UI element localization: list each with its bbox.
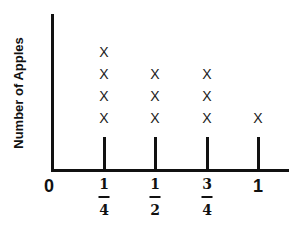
tick-one-quarter — [103, 137, 106, 171]
data-mark: X — [99, 111, 108, 125]
y-axis-label: Number of Apples — [11, 37, 26, 148]
data-mark: X — [202, 89, 211, 103]
fraction-denominator: 4 — [202, 203, 212, 217]
tick-one — [257, 137, 260, 171]
x-tick-label-three-quarters: 3 4 — [202, 177, 213, 217]
fraction-numerator: 1 — [150, 177, 160, 191]
line-plot: Number of Apples X X X X X X X X X X X 0… — [0, 0, 298, 226]
fraction-bar — [202, 196, 213, 198]
fraction-bar — [99, 196, 110, 198]
data-mark: X — [99, 45, 108, 59]
x-axis — [51, 169, 289, 172]
fraction-bar — [150, 196, 161, 198]
data-mark: X — [150, 89, 159, 103]
x-tick-label-one: 1 — [253, 176, 263, 197]
tick-three-quarters — [206, 137, 209, 171]
tick-one-half — [154, 137, 157, 171]
fraction-denominator: 2 — [150, 203, 160, 217]
data-mark: X — [99, 67, 108, 81]
fraction-numerator: 3 — [202, 177, 212, 191]
data-mark: X — [253, 111, 262, 125]
x-tick-label-zero: 0 — [44, 176, 54, 197]
data-mark: X — [99, 89, 108, 103]
data-mark: X — [150, 67, 159, 81]
y-axis — [51, 14, 54, 172]
fraction-numerator: 1 — [99, 177, 109, 191]
fraction-denominator: 4 — [99, 203, 109, 217]
data-mark: X — [202, 111, 211, 125]
data-mark: X — [202, 67, 211, 81]
x-tick-label-one-half: 1 2 — [150, 177, 161, 217]
data-mark: X — [150, 111, 159, 125]
x-tick-label-one-quarter: 1 4 — [99, 177, 110, 217]
